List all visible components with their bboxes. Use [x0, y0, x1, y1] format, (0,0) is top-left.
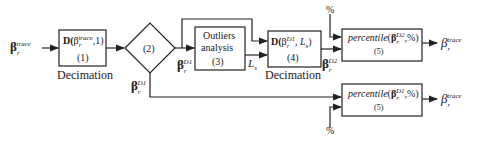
block1-number: (1) [77, 53, 89, 63]
block3-line1: Outliers [203, 31, 235, 41]
block2-out-bottom-label: βrD1 [131, 79, 146, 92]
block2-out-right-label: βrD1 [177, 58, 192, 71]
block4-number: (4) [287, 53, 299, 63]
arrow-percent-to-block5a [330, 14, 341, 37]
block5a-percent-input: % [326, 5, 334, 15]
block1-formula: D(βrtrace,1) [63, 36, 104, 46]
block1-caption: Decimation [57, 69, 113, 81]
block5b-percent-input: % [326, 126, 334, 136]
block5a-formula: percentile(βrD2,%) [348, 33, 419, 43]
block4-formula: D(βrD1, Ls) [271, 37, 312, 47]
block5b-number: (5) [374, 104, 383, 112]
block5b-formula: percentile(βrD1,%) [348, 89, 419, 99]
block5a-number: (5) [374, 48, 383, 56]
block4-out-label: βrD2 [322, 57, 337, 70]
block3-out-label: Ls [248, 58, 257, 69]
block2-number: (2) [143, 44, 155, 54]
block5a-output-label: βrtrace [441, 36, 462, 49]
block4-caption: Decimation [265, 69, 321, 81]
input-beta-trace: βrtrace [10, 40, 31, 53]
block3-line2: analysis [201, 43, 233, 53]
block3-number: (3) [212, 57, 224, 67]
block5b-output-label: βrtrace [441, 92, 462, 105]
